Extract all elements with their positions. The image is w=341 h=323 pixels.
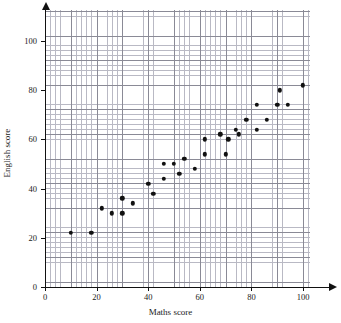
y-tick-label: 0 — [0, 282, 39, 292]
y-tick-mark — [41, 41, 45, 42]
y-tick-label: 100 — [0, 36, 39, 46]
y-tick-label: 80 — [0, 85, 39, 95]
data-point — [244, 118, 248, 122]
data-point — [285, 103, 289, 107]
y-tick-mark — [41, 139, 45, 140]
x-tick-label: 80 — [247, 292, 256, 302]
x-axis-title: Maths score — [0, 307, 341, 317]
data-point — [203, 152, 207, 156]
data-point — [275, 103, 279, 107]
data-point — [151, 191, 155, 195]
y-tick-mark — [41, 90, 45, 91]
x-tick-label: 20 — [92, 292, 101, 302]
data-point — [254, 103, 258, 107]
data-point — [177, 172, 181, 176]
data-point — [234, 127, 238, 131]
y-tick-mark — [41, 287, 45, 288]
data-point — [89, 231, 93, 235]
y-axis-line — [45, 8, 46, 289]
y-axis-arrow-icon — [42, 2, 50, 10]
data-point — [110, 211, 114, 215]
x-tick-label: 100 — [297, 292, 310, 302]
y-tick-label: 20 — [0, 233, 39, 243]
data-point — [265, 118, 269, 122]
x-tick-mark — [148, 287, 149, 291]
data-point — [131, 201, 135, 205]
data-point — [120, 211, 124, 215]
data-point — [100, 206, 104, 210]
x-tick-label: 60 — [196, 292, 205, 302]
data-point — [203, 137, 207, 141]
x-tick-label: 0 — [43, 292, 47, 302]
data-point — [120, 196, 124, 200]
data-point — [236, 132, 240, 136]
y-tick-mark — [41, 189, 45, 190]
x-tick-mark — [45, 287, 46, 291]
x-axis-arrow-icon — [329, 283, 337, 291]
data-point — [192, 167, 196, 171]
y-axis-title: English score — [2, 116, 12, 190]
data-point — [278, 88, 282, 92]
x-axis-line — [44, 287, 331, 288]
x-tick-mark — [303, 287, 304, 291]
data-point — [161, 177, 165, 181]
data-point — [161, 162, 165, 166]
x-tick-label: 40 — [144, 292, 153, 302]
data-point — [301, 83, 305, 87]
x-tick-mark — [251, 287, 252, 291]
y-tick-mark — [41, 238, 45, 239]
data-points-layer — [45, 10, 310, 287]
data-point — [69, 231, 73, 235]
scatter-chart-figure: 020406080100 020406080100 Maths score En… — [0, 0, 341, 323]
data-point — [146, 181, 150, 185]
data-point — [226, 137, 230, 141]
data-point — [223, 152, 227, 156]
x-tick-mark — [97, 287, 98, 291]
data-point — [254, 127, 258, 131]
data-point — [182, 157, 186, 161]
data-point — [172, 162, 176, 166]
data-point — [218, 132, 222, 136]
x-tick-mark — [200, 287, 201, 291]
